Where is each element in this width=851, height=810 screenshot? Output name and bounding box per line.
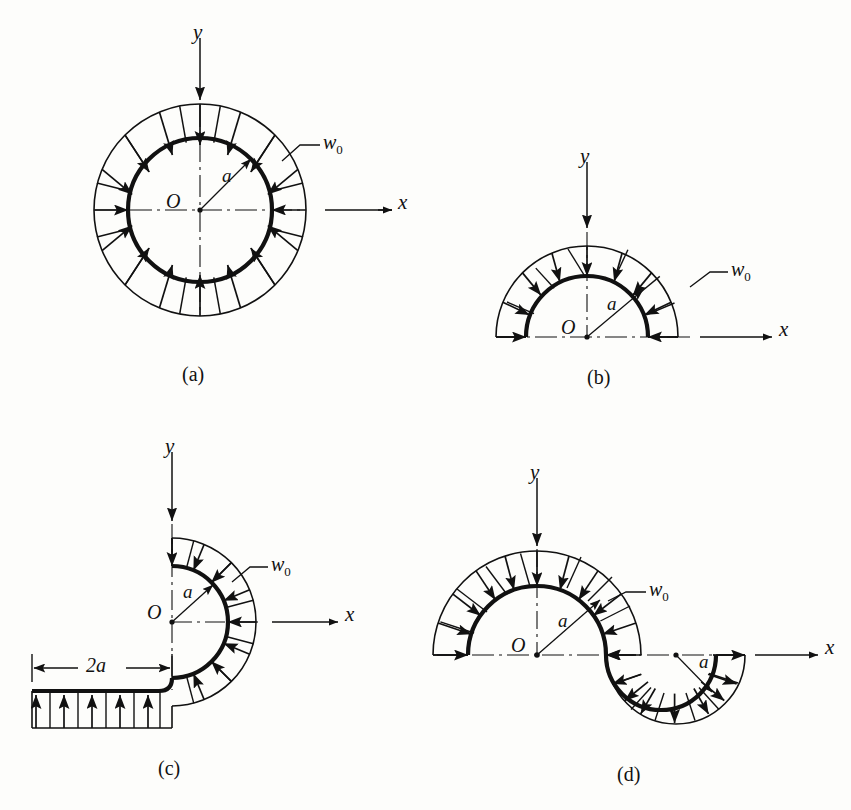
figure-d-y-axis-label: y	[530, 460, 539, 485]
figure-c-load-label: w0	[271, 553, 291, 580]
figure-d-radius-label-1: a	[558, 610, 568, 632]
figure-c-member-straight	[32, 678, 172, 691]
figure-d-outer-arc-2	[607, 655, 745, 724]
figure-c-straight-load-arrows	[36, 695, 148, 728]
figure-c-y-axis-label: y	[165, 434, 174, 459]
figure-b-load-arrows	[496, 246, 678, 337]
figure-page: y x O a w0 (a) y x O a w0 (b) y x O a w0…	[0, 0, 851, 810]
figure-a-load-label: w0	[323, 131, 343, 158]
figure-a-caption: (a)	[182, 363, 204, 386]
figure-b-origin-label: O	[561, 316, 575, 339]
figure-c-load-label-w: w	[271, 553, 284, 575]
figure-a-load-label-w: w	[323, 131, 336, 153]
figure-d-origin-label: O	[511, 634, 525, 657]
figure-a-origin-label: O	[166, 190, 180, 213]
figure-c-dimension-label: 2a	[86, 654, 106, 677]
figure-b-y-axis-label: y	[580, 144, 589, 169]
figure-d-caption: (d)	[617, 763, 640, 786]
figure-b-load-label-sub: 0	[744, 269, 751, 284]
figure-b-x-axis-label: x	[779, 317, 788, 342]
figure-c-caption: (c)	[158, 757, 180, 780]
figure-b-load-label: w0	[731, 258, 751, 285]
figure-d-origin-dot	[534, 652, 540, 658]
figure-a-load-label-sub: 0	[336, 142, 343, 157]
figure-d-center2-dot	[673, 652, 678, 657]
figure-b-caption: (b)	[587, 366, 610, 389]
figure-d-x-axis-label: x	[825, 635, 834, 660]
figure-d-arc1-spokes	[440, 554, 630, 634]
figure-a-group	[94, 38, 392, 316]
engineering-diagram-svg	[0, 0, 851, 810]
figure-c-origin-dot	[169, 619, 174, 624]
figure-a-origin-dot	[197, 207, 202, 212]
figure-d-load-label-w: w	[649, 578, 662, 600]
figure-c-origin-label: O	[147, 601, 161, 624]
figure-a-x-axis-label: x	[398, 190, 407, 215]
figure-a-y-axis-label: y	[193, 20, 202, 45]
figure-a-radius-label: a	[222, 165, 232, 187]
figure-b-load-leader	[690, 272, 728, 287]
figure-b-load-label-w: w	[731, 258, 744, 280]
figure-c-load-label-sub: 0	[284, 564, 291, 579]
figure-d-load-label: w0	[649, 578, 669, 605]
figure-b-radius-label: a	[607, 293, 617, 315]
figure-d-radius-leader-1	[537, 600, 600, 655]
figure-d-arc2-load-arrows	[607, 655, 745, 723]
figure-c-spokes	[50, 541, 253, 728]
figure-d-load-label-sub: 0	[662, 589, 669, 604]
figure-b-origin-dot	[584, 334, 589, 339]
figure-a-load-leader	[282, 145, 320, 161]
figure-b-spokes	[507, 249, 675, 315]
figure-c-radius-leader	[172, 585, 213, 622]
figure-c-radius-label: a	[183, 581, 193, 603]
figure-d-group	[433, 478, 818, 724]
figure-c-x-axis-label: x	[345, 602, 354, 627]
figure-b-group	[496, 162, 772, 341]
figure-d-radius-label-2: a	[699, 651, 709, 673]
